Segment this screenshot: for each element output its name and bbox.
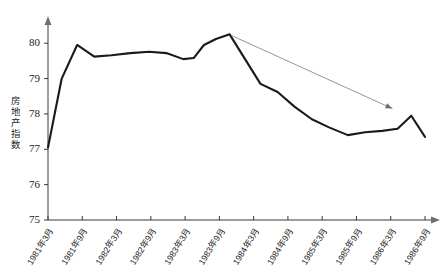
x-tick-label: 1985年9月 xyxy=(333,225,365,266)
x-tick-label: 1983年9月 xyxy=(196,225,228,266)
x-tick-label: 1982年3月 xyxy=(93,225,125,266)
y-tick-label: 80 xyxy=(29,36,41,48)
x-axis-tick-labels: 1981年3月1981年9月1982年3月1982年9月1983年3月1983年… xyxy=(24,225,433,266)
downtrend-arrow-line xyxy=(231,35,392,108)
real-estate-index-line-chart: 房 地 产 指 数 757677787980 1981年3月1981年9月198… xyxy=(0,0,443,279)
x-tick-label: 1986年9月 xyxy=(401,225,433,266)
downtrend-arrow-head xyxy=(385,103,392,108)
x-tick-label: 1985年3月 xyxy=(298,225,330,266)
y-axis-arrowhead xyxy=(45,16,52,25)
y-axis-label-char-1: 地 xyxy=(11,106,21,117)
annotation-layer xyxy=(231,35,392,108)
data-series-line xyxy=(48,34,425,147)
x-tick-label: 1986年3月 xyxy=(367,225,399,266)
y-axis-label-char-4: 数 xyxy=(11,139,21,150)
y-axis-label-char-3: 指 xyxy=(11,128,20,139)
x-tick-label: 1982年9月 xyxy=(127,225,159,266)
y-tick-label: 76 xyxy=(29,178,41,190)
y-tick-label: 78 xyxy=(29,107,41,119)
y-axis-ticks: 757677787980 xyxy=(29,36,48,225)
y-tick-label: 77 xyxy=(29,142,41,154)
x-tick-label: 1984年3月 xyxy=(230,225,262,266)
chart-container: 房 地 产 指 数 757677787980 1981年3月1981年9月198… xyxy=(0,0,443,279)
x-axis-arrowhead xyxy=(431,217,440,224)
y-axis-label-char-2: 产 xyxy=(11,117,20,128)
y-tick-label: 79 xyxy=(29,72,41,84)
x-tick-label: 1981年3月 xyxy=(24,225,56,266)
x-tick-label: 1981年9月 xyxy=(58,225,90,266)
x-tick-label: 1984年9月 xyxy=(264,225,296,266)
y-axis-label: 房 地 产 指 数 xyxy=(11,95,21,150)
x-tick-label: 1983年3月 xyxy=(161,225,193,266)
y-tick-label: 75 xyxy=(29,213,41,225)
x-axis-ticks xyxy=(48,216,425,220)
y-axis-label-char-0: 房 xyxy=(11,95,20,106)
